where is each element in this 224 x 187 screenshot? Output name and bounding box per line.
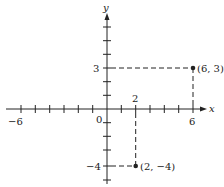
y-tick-label-3: 3 <box>93 63 99 74</box>
point-label-6-3: (6, 3) <box>197 63 224 74</box>
origin-label: 0 <box>96 114 102 125</box>
x-axis-arrow-icon <box>200 107 207 112</box>
x-tick-label-2: 2 <box>132 93 138 104</box>
point-2-neg4 <box>133 164 138 169</box>
point-6-3 <box>191 66 196 71</box>
x-tick-label-6: 6 <box>189 116 195 127</box>
y-axis-label: y <box>102 2 109 13</box>
x-axis-label: x <box>209 103 215 114</box>
point-label-2-neg4: (2, −4) <box>140 161 175 172</box>
coordinate-plane: y x 0 −6 2 6 3 −4 (6, 3) (2, −4) <box>0 0 224 187</box>
x-tick-label-neg6: −6 <box>8 116 23 127</box>
y-tick-label-neg4: −4 <box>86 161 101 172</box>
y-axis-arrow-icon <box>105 13 110 20</box>
